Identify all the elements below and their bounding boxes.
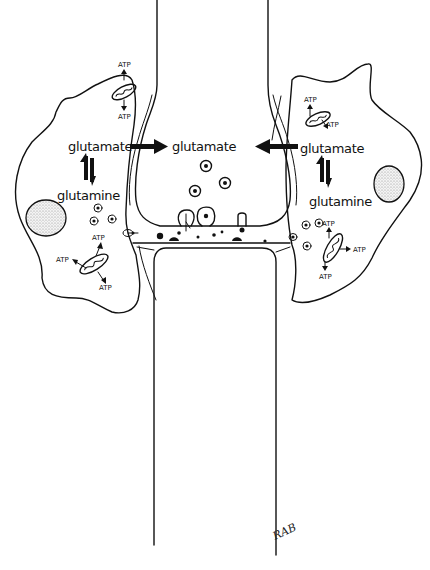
- synapse-diagram: ATP ATP glutamate glutamine ATP ATP ATP: [0, 0, 430, 570]
- atp-label: ATP: [118, 61, 131, 69]
- atp-label: ATP: [322, 220, 335, 228]
- vesicle: [201, 161, 212, 172]
- atp-label: ATP: [326, 121, 339, 129]
- right-glutamine-label: glutamine: [309, 194, 372, 209]
- nucleus: [374, 166, 404, 202]
- atp-label: ATP: [92, 234, 105, 242]
- right-astrocyte: ATP ATP glutamate glutamine ATP ATP ATP: [272, 64, 422, 303]
- transporter-icon: [123, 230, 138, 237]
- equilibrium-arrows-icon: [80, 153, 96, 186]
- atp-label: ATP: [319, 273, 332, 281]
- fusing-vesicle: [238, 213, 246, 233]
- atp-label: ATP: [353, 246, 366, 254]
- cleft-glutamate-label: glutamate: [172, 139, 236, 154]
- atp-label: ATP: [118, 113, 131, 121]
- vesicle: [94, 204, 102, 212]
- synaptic-cleft-glutamate: [157, 231, 267, 243]
- synaptic-vesicles: [178, 161, 246, 233]
- fusing-vesicle: [178, 210, 194, 231]
- fusing-vesicle: [197, 207, 215, 226]
- atp-label: ATP: [56, 256, 69, 264]
- vesicle: [190, 186, 201, 197]
- mitochondrion: [320, 231, 346, 265]
- vesicle: [303, 242, 311, 250]
- atp-label: ATP: [304, 96, 317, 104]
- postsynaptic-dendrite: [133, 243, 290, 555]
- presynaptic-terminal: [129, 0, 296, 226]
- nucleus: [26, 200, 66, 236]
- left-glutamine-label: glutamine: [57, 188, 120, 203]
- vesicle: [302, 221, 310, 229]
- atp-label: ATP: [99, 284, 112, 292]
- glutamate-release-arrows: glutamate: [130, 139, 298, 154]
- left-glutamate-label: glutamate: [68, 139, 132, 154]
- equilibrium-arrows-icon: [316, 155, 332, 188]
- right-glutamate-label: glutamate: [300, 141, 364, 156]
- artist-signature: RAB: [270, 521, 298, 543]
- arrow-right-icon: [130, 139, 168, 154]
- vesicle: [220, 178, 231, 189]
- vesicle: [90, 217, 98, 225]
- mitochondrion: [77, 250, 110, 277]
- vesicle: [108, 215, 116, 223]
